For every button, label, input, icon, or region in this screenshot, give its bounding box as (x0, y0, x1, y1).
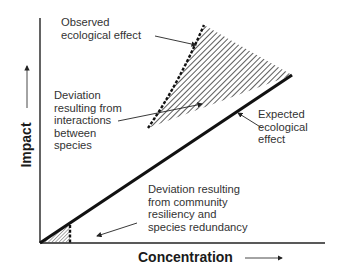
observed-effect-label: Observed ecological effect (61, 16, 141, 41)
observed-leader (155, 36, 196, 45)
x-axis-label: Concentration (138, 249, 233, 265)
resiliency-deviation-label: Deviation resulting from community resil… (148, 183, 248, 233)
resiliency-leader (97, 223, 137, 236)
interactions-deviation-label: Deviation resulting from interactions be… (54, 89, 122, 152)
expected-effect-label: Expected ecological effect (258, 108, 308, 146)
y-axis-label: Impact (18, 119, 34, 171)
